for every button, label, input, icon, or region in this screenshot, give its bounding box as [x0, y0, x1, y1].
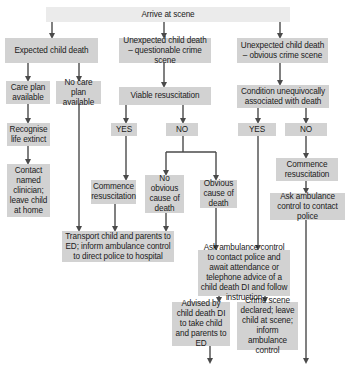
no-care-plan-available-node: No care plan available [56, 81, 101, 104]
transport-child-to-ed-node: Transport child and parents to ED; infor… [62, 231, 174, 262]
unexpected-obvious-crime-scene-node: Unexpected child death – obvious crime s… [237, 38, 328, 63]
expected-child-death-node: Expected child death [5, 38, 98, 63]
ask-ambulance-contact-police-node: Ask ambulance control to contact police [270, 193, 345, 220]
crime-scene-declared-node: Crime scene declared; leave child at sce… [237, 302, 298, 350]
commence-resuscitation-mid-node: Commence resuscitation [91, 180, 136, 204]
no-condition-node: NO [285, 123, 327, 136]
care-plan-available-node: Care plan available [6, 81, 50, 104]
advised-by-child-death-di-node: Advised by child death DI to take child … [172, 302, 230, 346]
no-viable-node: NO [166, 123, 198, 136]
contact-named-clinician-node: Contact named clinician; leave child at … [7, 164, 50, 217]
ask-ambulance-await-di-node: Ask ambulance control to contact police … [198, 250, 290, 296]
viable-resuscitation-node: Viable resuscitation [119, 87, 211, 105]
arrive-at-scene-node: Arrive at scene [46, 7, 290, 22]
recognise-life-extinct-node: Recognise life extinct [7, 123, 50, 146]
no-obvious-cause-of-death-node: No obvious cause of death [145, 175, 184, 213]
obvious-cause-of-death-node: Obvious cause of death [200, 180, 237, 208]
condition-unequivocally-associated-node: Condition unequivocally associated with … [237, 85, 329, 108]
unexpected-questionable-crime-scene-node: Unexpected child death – questionable cr… [119, 38, 211, 63]
commence-resuscitation-right-node: Commence resuscitation [276, 158, 338, 181]
yes-condition-node: YES [238, 123, 276, 136]
yes-viable-node: YES [111, 123, 137, 136]
